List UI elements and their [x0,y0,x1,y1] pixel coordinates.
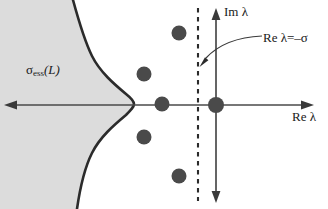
eigenvalue-top [172,26,187,41]
imaginary-axis-arrow-up [212,8,221,20]
eigenvalue-bottom [172,169,187,184]
eigenvalue-lower-left [137,130,152,145]
eigenvalue-real-left [155,97,170,112]
essential-spectrum-sigma: σ [26,62,33,77]
callout-leader-line [206,36,262,58]
eigenvalue-origin [208,97,224,113]
essential-spectrum-label: σess(L) [26,63,60,78]
re-lambda-equals-minus-sigma-label: Re λ=–σ [263,31,308,44]
imaginary-axis-label: Im λ [224,5,248,18]
eigenvalue-upper-left [137,67,152,82]
spectrum-diagram: Im λ Re λ Re λ=–σ σess(L) [0,0,328,209]
essential-spectrum-operator: (L) [44,62,60,77]
real-axis-label: Re λ [292,110,316,123]
essential-spectrum-subscript: ess [33,68,44,78]
imaginary-axis-arrow-down [212,191,221,203]
callout-arrowhead-icon [200,57,209,67]
